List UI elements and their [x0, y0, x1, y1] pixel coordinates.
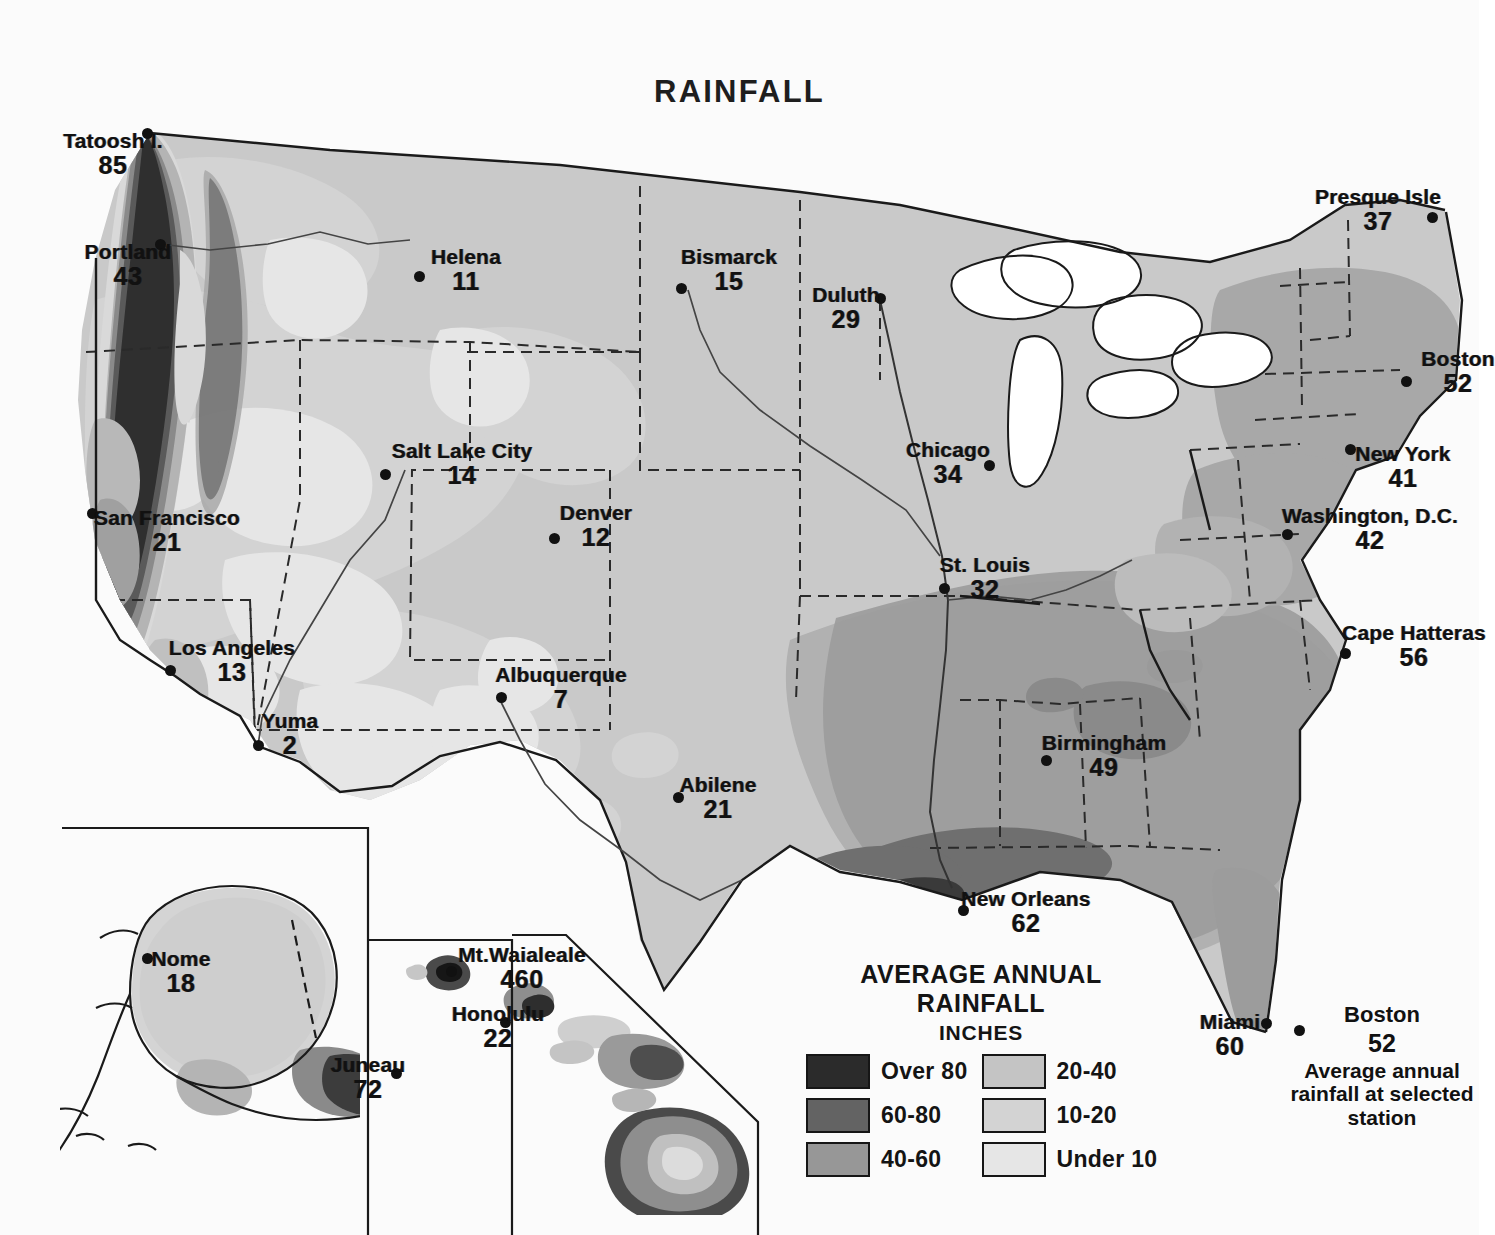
- station-label: Presque Isle37: [1315, 186, 1441, 234]
- legend-swatch: [806, 1054, 870, 1089]
- station-name: Tatoosh I.: [63, 130, 163, 151]
- station-label: Boston52: [1421, 348, 1495, 396]
- station-value: 41: [1355, 466, 1450, 491]
- station-value: 21: [94, 530, 240, 555]
- station-name: Los Angeles: [169, 637, 295, 658]
- legend-item: 40-60: [806, 1142, 968, 1177]
- station-value: 85: [63, 153, 163, 178]
- station-value: 34: [906, 462, 990, 487]
- station-value: 62: [961, 911, 1090, 936]
- station-label: Albuquerque7: [495, 664, 627, 712]
- station-label: Bismarck15: [681, 246, 777, 294]
- station-value: 56: [1342, 645, 1486, 670]
- station-value: 49: [1042, 755, 1167, 780]
- station-value: 42: [1282, 528, 1458, 553]
- sample-station-dot: [1294, 1025, 1305, 1036]
- station-name: Nome: [151, 948, 210, 969]
- station-label: Salt Lake City14: [392, 440, 533, 488]
- station-name: New Orleans: [961, 888, 1090, 909]
- hawaii-inset: [406, 955, 749, 1224]
- station-name: Presque Isle: [1315, 186, 1441, 207]
- station-value: 18: [151, 971, 210, 996]
- station-name: Birmingham: [1042, 732, 1167, 753]
- station-value: 29: [812, 307, 880, 332]
- legend-title: AVERAGE ANNUAL RAINFALL: [806, 960, 1156, 1018]
- station-name: San Francisco: [94, 507, 240, 528]
- station-name: New York: [1355, 443, 1450, 464]
- station-name: Mt.Waialeale: [458, 944, 586, 965]
- legend-swatch: [982, 1054, 1046, 1089]
- station-name: Cape Hatteras: [1342, 622, 1486, 643]
- station-label: Birmingham49: [1042, 732, 1167, 780]
- sample-station-value: 52: [1282, 1029, 1482, 1057]
- station-value: 2: [262, 733, 319, 758]
- station-value: 72: [331, 1077, 406, 1102]
- legend-swatch: [806, 1142, 870, 1177]
- station-label: Abilene21: [679, 774, 756, 822]
- station-label: Yuma2: [262, 710, 319, 758]
- station-label: Honolulu22: [452, 1003, 545, 1051]
- sample-station-description: Average annual rainfall at selected stat…: [1282, 1059, 1482, 1130]
- station-label: Los Angeles13: [169, 637, 295, 685]
- legend-units: INCHES: [806, 1021, 1156, 1045]
- station-value: 60: [1200, 1034, 1261, 1059]
- station-value: 7: [495, 687, 627, 712]
- station-label: Washington, D.C.42: [1282, 505, 1458, 553]
- station-label: Tatoosh I.85: [63, 130, 163, 178]
- station-label: Nome18: [151, 948, 210, 996]
- legend-label: 10-20: [1057, 1102, 1117, 1129]
- legend-swatch: [982, 1142, 1046, 1177]
- legend-swatch: [982, 1098, 1046, 1133]
- station-name: Helena: [431, 246, 501, 267]
- station-name: Duluth: [812, 284, 880, 305]
- station-dot: [549, 533, 560, 544]
- station-value: 12: [560, 525, 632, 550]
- legend-swatch-grid: Over 8020-4060-8010-2040-60Under 10: [806, 1054, 1156, 1177]
- station-dot: [380, 469, 391, 480]
- station-name: Yuma: [262, 710, 319, 731]
- legend-label: Under 10: [1057, 1146, 1158, 1173]
- station-dot: [414, 271, 425, 282]
- station-label: San Francisco21: [94, 507, 240, 555]
- legend-item: 10-20: [982, 1098, 1158, 1133]
- station-value: 15: [681, 269, 777, 294]
- station-name: St. Louis: [940, 554, 1030, 575]
- station-name: Miami: [1200, 1011, 1261, 1032]
- sample-station-city: Boston: [1282, 1003, 1482, 1028]
- station-label: Miami60: [1200, 1011, 1261, 1059]
- station-label: Helena11: [431, 246, 501, 294]
- station-dot: [446, 966, 457, 977]
- station-label: Portland43: [85, 241, 172, 289]
- station-label: Chicago34: [906, 439, 990, 487]
- legend-item: 60-80: [806, 1098, 968, 1133]
- station-name: Salt Lake City: [392, 440, 533, 461]
- station-name: Abilene: [679, 774, 756, 795]
- station-dot: [1401, 376, 1412, 387]
- station-dot: [1261, 1018, 1272, 1029]
- station-value: 14: [392, 463, 533, 488]
- station-name: Juneau: [331, 1054, 406, 1075]
- station-value: 43: [85, 264, 172, 289]
- station-label: Cape Hatteras56: [1342, 622, 1486, 670]
- station-label: New York41: [1355, 443, 1450, 491]
- legend-label: 60-80: [881, 1102, 941, 1129]
- station-label: New Orleans62: [961, 888, 1090, 936]
- station-value: 11: [431, 269, 501, 294]
- station-dot: [1345, 444, 1356, 455]
- legend-item: Over 80: [806, 1054, 968, 1089]
- legend-swatch: [806, 1098, 870, 1133]
- station-name: Albuquerque: [495, 664, 627, 685]
- station-name: Boston: [1421, 348, 1495, 369]
- station-name: Washington, D.C.: [1282, 505, 1458, 526]
- station-value: 37: [1315, 209, 1441, 234]
- station-label: Denver12: [560, 502, 632, 550]
- station-name: Portland: [85, 241, 172, 262]
- legend-item: Under 10: [982, 1142, 1158, 1177]
- station-label: Duluth29: [812, 284, 880, 332]
- station-name: Honolulu: [452, 1003, 545, 1024]
- sample-station-key: Boston 52 Average annual rainfall at sel…: [1282, 1003, 1482, 1129]
- station-value: 13: [169, 660, 295, 685]
- station-name: Denver: [560, 502, 632, 523]
- station-value: 460: [458, 967, 586, 992]
